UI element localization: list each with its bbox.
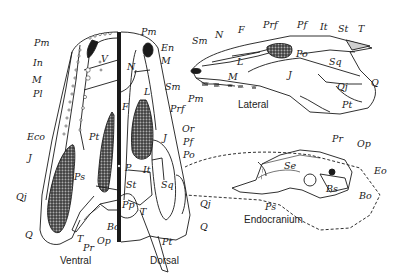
dorsal-orbit [131, 100, 152, 159]
caption-endocranium: Endocranium [244, 215, 303, 225]
ventral-interpterygoid-vacuity [98, 112, 114, 192]
label-dorsal-sm: Sm [165, 82, 181, 92]
label-dorsal-q: Q [200, 222, 208, 232]
label-lateral-j: J [288, 70, 292, 80]
label-dorsal-prf: Prf [170, 104, 184, 114]
label-ventral-pm: Pm [34, 38, 49, 48]
label-dorsal-n: N [127, 62, 135, 72]
label-ventral-m: M [32, 75, 42, 85]
dorsal-external-naris [143, 43, 153, 57]
label-ventral-v: V [101, 54, 108, 64]
label-ventral-eco: Eco [27, 132, 45, 142]
label-lateral-n: N [215, 30, 223, 40]
label-dorsal-l: L [144, 87, 150, 97]
label-dorsal-pm: Pm [141, 27, 156, 37]
label-dorsal-st: St [126, 180, 136, 190]
label-lateral-t: T [358, 24, 364, 34]
label-lateral-st: St [338, 24, 348, 34]
ventral-subtemporal-fossa [48, 145, 75, 233]
label-endo-se: Se [284, 161, 296, 171]
label-ventral-pl: Pl [33, 89, 42, 99]
label-lateral-q: Q [371, 78, 379, 88]
lateral-naris [191, 69, 201, 74]
label-lateral-po: Po [296, 49, 308, 59]
label-ventral-bo: Bo [107, 222, 120, 232]
label-endo-pr: Pr [332, 134, 343, 144]
label-ventral-q: Q [25, 230, 33, 240]
label-ventral-in: In [33, 58, 43, 68]
label-dorsal-sq: Sq [161, 180, 174, 190]
label-dorsal-po: Po [183, 150, 195, 160]
label-lateral-l: L [237, 57, 243, 67]
label-ventral-qj: Qj [16, 192, 27, 202]
caption-lateral: Lateral [238, 100, 269, 110]
label-dorsal-pt: Pt [162, 237, 172, 247]
label-dorsal-or: Or [182, 124, 194, 134]
label-dorsal-en: En [161, 43, 174, 53]
label-dorsal-p: P [125, 163, 131, 173]
label-ventral-ps: Ps [74, 172, 85, 182]
label-ventral-pt: Pt [89, 132, 99, 142]
label-endo-op: Op [357, 139, 371, 149]
label-dorsal-f: F [122, 102, 129, 112]
label-lateral-sq: Sq [329, 57, 342, 67]
label-dorsal-pp: Pp [122, 200, 134, 210]
skull-diagram: Pm In M Pl Eco Pt V J Qj Q Ps T Pr Op Bo… [0, 0, 397, 278]
label-dorsal-it: It [143, 165, 151, 175]
label-endo-eo: Eo [374, 166, 387, 176]
label-lateral-prf: Prf [263, 20, 277, 30]
label-lateral-f: F [238, 25, 245, 35]
label-lateral-it: It [320, 22, 328, 32]
caption-ventral: Ventral [60, 256, 91, 266]
label-endo-bo: Bo [359, 191, 372, 201]
label-ventral-op: Op [97, 236, 111, 246]
ventral-internal-naris [87, 40, 98, 58]
label-dorsal-j: J [163, 133, 167, 143]
label-dorsal-qj: Qj [200, 199, 211, 209]
label-endo-ps: Ps [265, 202, 276, 212]
caption-dorsal: Dorsal [150, 256, 179, 266]
label-dorsal-t: T [140, 207, 146, 217]
label-lateral-m: M [228, 72, 238, 82]
lateral-orbit [267, 43, 292, 58]
label-lateral-pf: Pf [297, 20, 307, 30]
label-dorsal-m: M [161, 56, 171, 66]
label-ventral-pr: Pr [83, 243, 94, 253]
label-lateral-qj: Qj [337, 82, 348, 92]
label-lateral-sm: Sm [192, 36, 208, 46]
label-dorsal-pf: Pf [183, 137, 193, 147]
label-lateral-pt: Pt [342, 100, 352, 110]
label-ventral-j: J [28, 153, 32, 163]
label-endo-bs: Bs [326, 184, 338, 194]
label-lateral-pm: Pm [188, 94, 203, 104]
